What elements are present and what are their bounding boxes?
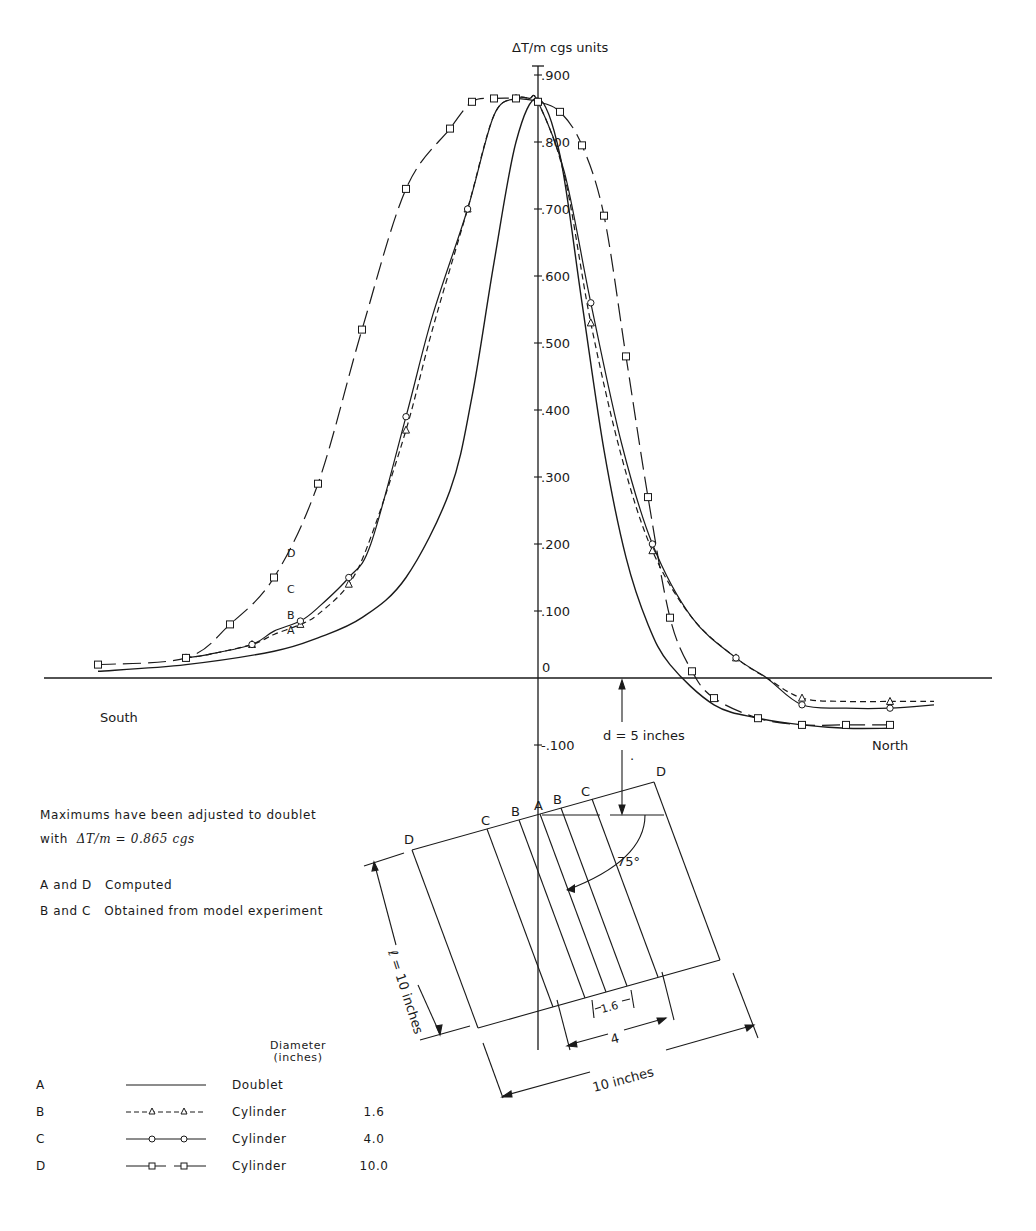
south-label: South bbox=[100, 710, 138, 725]
y-tick-label: -.100 bbox=[541, 738, 575, 753]
square-marker-icon bbox=[755, 715, 762, 722]
north-label: North bbox=[872, 738, 908, 753]
triangle-marker-icon bbox=[587, 319, 594, 326]
y-tick-label: .600 bbox=[541, 269, 570, 284]
legend-row-a: ADoublet bbox=[36, 1076, 404, 1094]
legend-key: A bbox=[36, 1078, 112, 1092]
square-marker-icon bbox=[535, 98, 542, 105]
diagram-label-b: B bbox=[511, 804, 520, 819]
y-tick-label: .900 bbox=[541, 68, 570, 83]
square-marker-icon bbox=[887, 721, 894, 728]
circle-marker-icon bbox=[799, 702, 805, 708]
legend-description: Cylinder bbox=[232, 1132, 344, 1146]
legend-row-d: DCylinder10.0 bbox=[36, 1157, 404, 1175]
square-marker-icon bbox=[469, 98, 476, 105]
axes bbox=[44, 66, 992, 1050]
square-marker-icon bbox=[227, 621, 234, 628]
legend-swatch-icon bbox=[112, 1105, 232, 1119]
tick-minus-100-dot: . bbox=[630, 748, 634, 763]
diagram-label-d: D bbox=[656, 764, 666, 779]
legend-diameter: 4.0 bbox=[344, 1132, 404, 1146]
circle-marker-icon bbox=[887, 705, 893, 711]
curves bbox=[95, 94, 935, 728]
square-marker-icon bbox=[645, 494, 652, 501]
circle-marker-icon bbox=[297, 618, 303, 624]
y-tick-label: .100 bbox=[541, 604, 570, 619]
square-marker-icon bbox=[359, 326, 366, 333]
legend-description: Doublet bbox=[232, 1078, 344, 1092]
legend-key: C bbox=[36, 1132, 112, 1146]
legend-header: Diameter (inches) bbox=[270, 1040, 326, 1064]
triangle-marker-icon bbox=[345, 580, 352, 587]
depth-label: d = 5 inches bbox=[603, 728, 685, 743]
square-marker-icon bbox=[579, 142, 586, 149]
diagram-label-c: C bbox=[581, 784, 590, 799]
y-tick-label: 0 bbox=[542, 660, 550, 675]
square-marker-icon bbox=[799, 721, 806, 728]
square-marker-icon bbox=[843, 721, 850, 728]
width-10-label: 10 inches bbox=[591, 1064, 656, 1095]
circle-marker-icon bbox=[346, 574, 352, 580]
diagram-label-c: C bbox=[481, 813, 490, 828]
y-tick-label: .700 bbox=[541, 202, 570, 217]
square-marker-icon bbox=[601, 212, 608, 219]
cylinder-diagram bbox=[412, 782, 720, 1028]
curve-label-a: A bbox=[287, 624, 295, 637]
note-experiment: B and C Obtained from model experiment bbox=[40, 904, 323, 918]
circle-marker-icon bbox=[249, 641, 255, 647]
y-axis-label: ΔT/m cgs units bbox=[512, 40, 609, 55]
circle-marker-icon bbox=[403, 414, 409, 420]
square-marker-icon bbox=[513, 95, 520, 102]
square-marker-icon bbox=[623, 353, 630, 360]
curve-label-b: B bbox=[287, 609, 295, 622]
square-marker-icon bbox=[711, 695, 718, 702]
y-tick-label: .200 bbox=[541, 537, 570, 552]
square-marker-icon bbox=[271, 574, 278, 581]
series-d bbox=[95, 95, 894, 728]
legend-diameter: 10.0 bbox=[344, 1159, 404, 1173]
y-tick-label: .400 bbox=[541, 403, 570, 418]
square-marker-icon bbox=[95, 661, 102, 668]
legend-diameter: 1.6 bbox=[344, 1105, 404, 1119]
circle-marker-icon bbox=[733, 655, 739, 661]
series-a bbox=[98, 98, 890, 728]
square-marker-icon bbox=[491, 95, 498, 102]
curve-label-c: C bbox=[287, 583, 295, 596]
square-marker-icon bbox=[557, 108, 564, 115]
legend-swatch-icon bbox=[112, 1159, 232, 1173]
y-ticks: .900.800.700.600.500.400.300.200.1000-.1… bbox=[534, 68, 575, 753]
square-marker-icon bbox=[447, 125, 454, 132]
width-4-label: 4 bbox=[609, 1030, 621, 1047]
legend-swatch-icon bbox=[112, 1078, 232, 1092]
legend-description: Cylinder bbox=[232, 1105, 344, 1119]
note-formula: with ΔT/m = 0.865 cgs bbox=[40, 832, 195, 846]
legend-key: D bbox=[36, 1159, 112, 1173]
legend-description: Cylinder bbox=[232, 1159, 344, 1173]
circle-marker-icon bbox=[649, 541, 655, 547]
circle-marker-icon bbox=[588, 300, 594, 306]
length-label: ℓ = 10 inches bbox=[385, 947, 427, 1036]
figure: .900.800.700.600.500.400.300.200.1000-.1… bbox=[0, 0, 1036, 1231]
curve-label-d: D bbox=[287, 547, 295, 560]
note-formula-prefix: with bbox=[40, 832, 68, 846]
diagram-label-d: D bbox=[404, 832, 414, 847]
angle-label: 75° bbox=[617, 854, 640, 869]
legend-swatch-icon bbox=[112, 1132, 232, 1146]
y-tick-label: .500 bbox=[541, 336, 570, 351]
legend-row-c: CCylinder4.0 bbox=[36, 1130, 404, 1148]
diagram-label-b: B bbox=[553, 792, 562, 807]
square-marker-icon bbox=[667, 614, 674, 621]
square-marker-icon bbox=[315, 480, 322, 487]
legend-row-b: BCylinder1.6 bbox=[36, 1103, 404, 1121]
triangle-marker-icon bbox=[799, 694, 806, 701]
square-marker-icon bbox=[403, 185, 410, 192]
legend-key: B bbox=[36, 1105, 112, 1119]
circle-marker-icon bbox=[464, 206, 470, 212]
note-formula-value: ΔT/m = 0.865 cgs bbox=[77, 832, 195, 846]
square-marker-icon bbox=[183, 654, 190, 661]
y-tick-label: .300 bbox=[541, 470, 570, 485]
note-computed: A and D Computed bbox=[40, 878, 172, 892]
diagram-label-a: A bbox=[534, 798, 543, 813]
diagram-top-labels: DCBABCD bbox=[404, 764, 666, 847]
note-maximums: Maximums have been adjusted to doublet bbox=[40, 808, 316, 822]
